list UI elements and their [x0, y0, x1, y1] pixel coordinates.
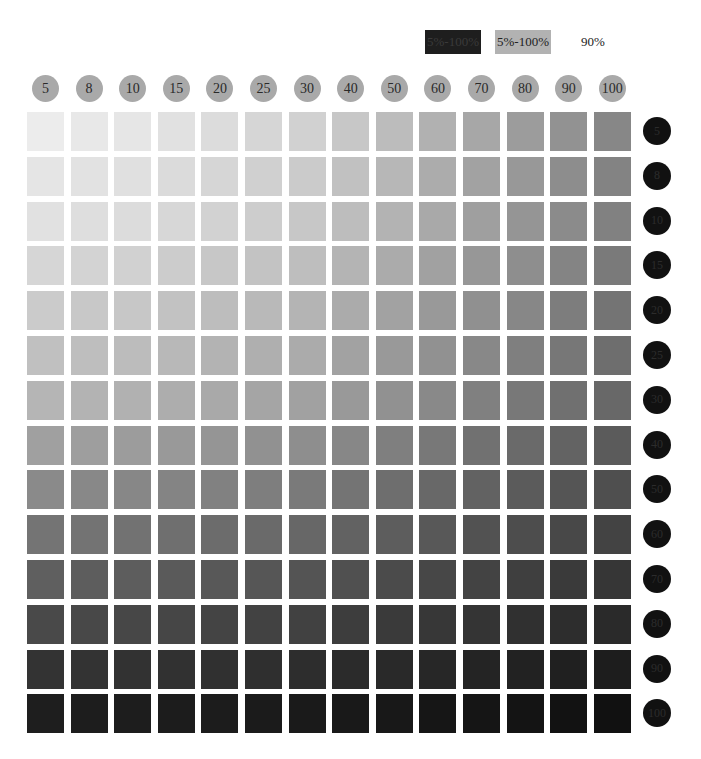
- tint-cell: [27, 650, 64, 689]
- tint-cell: [114, 515, 151, 554]
- tint-cell: [245, 336, 282, 375]
- tint-cell: [332, 605, 369, 644]
- row-header-8: 8: [643, 162, 671, 190]
- tint-cell: [550, 694, 587, 733]
- tint-cell: [376, 605, 413, 644]
- tint-cell: [463, 694, 500, 733]
- tint-cell: [332, 202, 369, 241]
- tint-cell: [158, 650, 195, 689]
- tint-cell: [71, 515, 108, 554]
- tint-cell: [27, 157, 64, 196]
- tint-cell: [158, 694, 195, 733]
- tint-cell: [114, 605, 151, 644]
- tint-cell: [27, 202, 64, 241]
- tint-cell: [419, 605, 456, 644]
- tint-cell: [507, 202, 544, 241]
- row-header-20: 20: [643, 296, 671, 324]
- tint-cell: [71, 202, 108, 241]
- tint-cell: [245, 291, 282, 330]
- tint-cell: [332, 157, 369, 196]
- tint-cell: [376, 202, 413, 241]
- tint-cell: [376, 426, 413, 465]
- tint-cell: [332, 515, 369, 554]
- column-header-40: 40: [337, 75, 364, 102]
- tint-cell: [71, 157, 108, 196]
- tint-cell: [27, 470, 64, 509]
- tint-cell: [332, 426, 369, 465]
- row-header-15: 15: [643, 251, 671, 279]
- legend-item-black-range: 5%-100%: [425, 30, 481, 54]
- tint-cell: [289, 694, 326, 733]
- tint-cell: [332, 650, 369, 689]
- tint-cell: [419, 694, 456, 733]
- tint-cell: [114, 246, 151, 285]
- tint-cell: [463, 291, 500, 330]
- tint-cell: [594, 426, 631, 465]
- tint-cell: [289, 560, 326, 599]
- row-header-90: 90: [643, 655, 671, 683]
- tint-cell: [419, 470, 456, 509]
- tint-cell: [594, 157, 631, 196]
- tint-cell: [376, 246, 413, 285]
- tint-cell: [158, 202, 195, 241]
- tint-cell: [550, 650, 587, 689]
- tint-cell: [114, 336, 151, 375]
- tint-cell: [71, 112, 108, 151]
- row-header-60: 60: [643, 520, 671, 548]
- tint-cell: [419, 381, 456, 420]
- tint-cell: [158, 291, 195, 330]
- column-header-60: 60: [424, 75, 451, 102]
- tint-cell: [419, 336, 456, 375]
- tint-cell: [463, 336, 500, 375]
- tint-cell: [158, 381, 195, 420]
- column-header-25: 25: [250, 75, 277, 102]
- tint-cell: [71, 605, 108, 644]
- tint-cell: [114, 426, 151, 465]
- tint-cell: [245, 560, 282, 599]
- tint-cell: [419, 560, 456, 599]
- legend-item-gray-range: 5%-100%: [495, 30, 551, 54]
- tint-cell: [245, 246, 282, 285]
- tint-cell: [594, 202, 631, 241]
- tint-cell: [594, 291, 631, 330]
- tint-cell: [550, 515, 587, 554]
- tint-cell: [507, 246, 544, 285]
- tint-cell: [550, 336, 587, 375]
- tint-cell: [158, 336, 195, 375]
- column-header-90: 90: [555, 75, 582, 102]
- tint-cell: [594, 694, 631, 733]
- tint-cell: [71, 560, 108, 599]
- tint-cell: [158, 426, 195, 465]
- column-header-20: 20: [206, 75, 233, 102]
- tint-cell: [158, 605, 195, 644]
- tint-cell: [594, 650, 631, 689]
- tint-cell: [201, 560, 238, 599]
- tint-cell: [376, 694, 413, 733]
- tint-cell: [289, 426, 326, 465]
- tint-cell: [201, 246, 238, 285]
- tint-cell: [550, 381, 587, 420]
- tint-cell: [289, 650, 326, 689]
- tint-cell: [27, 291, 64, 330]
- legend-item-90: 90%: [568, 30, 618, 54]
- tint-cell: [332, 246, 369, 285]
- tint-cell: [550, 157, 587, 196]
- tint-cell: [289, 605, 326, 644]
- tint-cell: [114, 470, 151, 509]
- tint-cell: [158, 157, 195, 196]
- tint-cell: [550, 560, 587, 599]
- tint-cell: [507, 694, 544, 733]
- tint-cell: [507, 291, 544, 330]
- tint-cell: [550, 246, 587, 285]
- tint-cell: [463, 426, 500, 465]
- tint-cell: [594, 112, 631, 151]
- tint-cell: [245, 605, 282, 644]
- column-header-5: 5: [32, 75, 59, 102]
- tint-cell: [550, 426, 587, 465]
- tint-cell: [245, 650, 282, 689]
- tint-cell: [419, 112, 456, 151]
- tint-cell: [419, 291, 456, 330]
- tint-cell: [376, 291, 413, 330]
- tint-cell: [245, 202, 282, 241]
- tint-cell: [507, 605, 544, 644]
